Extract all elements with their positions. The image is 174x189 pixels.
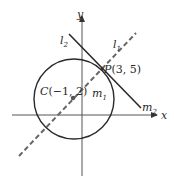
point-p-coords: (3, 5) [111, 63, 141, 76]
label-m2: m2 [142, 101, 157, 116]
x-axis-label: x [161, 109, 168, 122]
diagram-canvas: y x P(3, 5) C(−1, 2) l2 l1 m1 m2 [0, 0, 174, 189]
center-label: C(−1, 2) [40, 85, 87, 98]
y-axis-label: y [76, 8, 84, 21]
label-m1: m1 [92, 87, 107, 102]
label-l1: l1 [113, 38, 121, 53]
label-l2: l2 [60, 34, 69, 49]
point-p-label: P(3, 5) [103, 63, 141, 76]
